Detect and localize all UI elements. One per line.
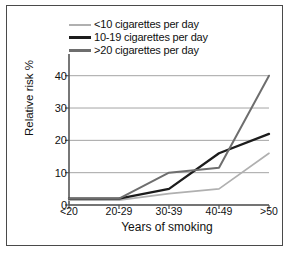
y-tick-label: 30 xyxy=(45,102,67,114)
plot-area-wrapper: Relative risk % Years of smoking 0102030… xyxy=(7,6,282,245)
data-series-lines xyxy=(69,76,269,200)
chart-figure: <10 cigarettes per day 10-19 cigarettes … xyxy=(6,5,283,246)
y-tick-label: 20 xyxy=(45,134,67,146)
x-tick-label: >50 xyxy=(246,205,291,217)
x-axis-title: Years of smoking xyxy=(67,220,267,234)
gridlines xyxy=(69,76,269,205)
x-tick-label: 30-39 xyxy=(146,205,192,217)
x-tick-label: 40-49 xyxy=(196,205,242,217)
x-tick-label: <20 xyxy=(46,205,92,217)
y-axis-title: Relative risk % xyxy=(23,38,35,158)
x-tick-label: 20-29 xyxy=(96,205,142,217)
y-tick-label: 40 xyxy=(45,70,67,82)
y-tick-label: 10 xyxy=(45,167,67,179)
x-axis-tick-labels: <2020-2930-3940-49>50 xyxy=(7,205,282,219)
